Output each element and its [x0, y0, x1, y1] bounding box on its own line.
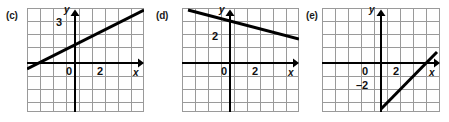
x-tick-label-c: 2: [97, 66, 103, 77]
data-line-e: [381, 52, 437, 109]
y-tick-label-c: 3: [56, 17, 62, 28]
panel-c: (c): [0, 0, 150, 122]
y-axis-arrow-d: [226, 10, 235, 17]
x-tick-label-d: 2: [252, 66, 258, 77]
x-axis-name-d: x: [288, 68, 294, 78]
origin-label-d: 0: [221, 66, 227, 77]
y-axis-name-d: y: [219, 5, 225, 15]
y-tick-label-e: –2: [356, 80, 368, 91]
y-axis-arrow-c: [71, 10, 80, 17]
panel-label-c: (c): [6, 11, 18, 21]
x-axis-name-c: x: [133, 68, 139, 78]
graph-svg-c: [27, 8, 144, 112]
panel-d: (d): [150, 0, 300, 122]
data-line-c: [27, 10, 144, 69]
plot-area-e: [322, 8, 440, 112]
axes-d: [182, 16, 293, 112]
graph-svg-d: [182, 8, 299, 112]
x-axis-name-e: x: [429, 68, 435, 78]
panel-label-d: (d): [156, 11, 168, 21]
graph-figure: (c): [0, 0, 449, 122]
x-tick-label-e: 2: [393, 66, 399, 77]
origin-label-c: 0: [66, 66, 72, 77]
axes-e: [322, 16, 434, 112]
plot-area-d: [182, 8, 299, 112]
axes-c: [27, 16, 138, 112]
y-axis-name-c: y: [64, 5, 70, 15]
y-axis-name-e: y: [369, 5, 375, 15]
y-axis-arrow-e: [377, 10, 386, 17]
panel-e: (e): [300, 0, 449, 122]
origin-label-e: 0: [362, 66, 368, 77]
plot-area-c: [27, 8, 144, 112]
graph-svg-e: [322, 8, 440, 112]
y-tick-label-d: 2: [212, 31, 218, 42]
panel-label-e: (e): [306, 11, 318, 21]
